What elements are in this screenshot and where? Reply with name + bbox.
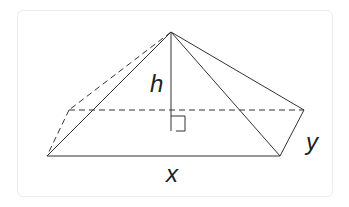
edge-apex-back-right: [171, 32, 304, 110]
height-label: h: [150, 72, 163, 96]
base-width-label: y: [306, 130, 318, 154]
base-length-label: x: [166, 162, 178, 186]
hidden-edges: [47, 32, 304, 156]
edge-apex-front-right: [171, 32, 280, 156]
hidden-edge-left-base: [47, 110, 69, 156]
visible-edges: [47, 32, 304, 156]
right-angle-marker: [171, 116, 185, 131]
edge-right-base: [280, 110, 304, 156]
